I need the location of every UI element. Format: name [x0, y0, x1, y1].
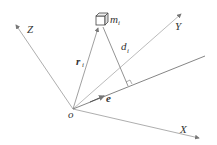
z-axis — [16, 25, 73, 109]
y-axis — [73, 14, 181, 109]
label-x: X — [179, 123, 188, 135]
distance-line-d — [103, 27, 128, 86]
label-mass: m — [110, 13, 118, 25]
label-y: Y — [175, 20, 183, 32]
position-vector-r — [73, 28, 98, 109]
unit-vector-e — [90, 96, 104, 102]
rotation-axis-diagram: Z Y X o m i r i d i e — [0, 0, 217, 145]
label-mass-sub: i — [118, 19, 120, 27]
label-z: Z — [27, 23, 34, 35]
label-d-sub: i — [127, 47, 129, 55]
mass-cube-icon — [96, 13, 108, 25]
label-e: e — [106, 92, 111, 104]
label-origin: o — [68, 108, 74, 120]
label-r-sub: i — [82, 61, 84, 69]
label-r: r — [76, 55, 81, 67]
